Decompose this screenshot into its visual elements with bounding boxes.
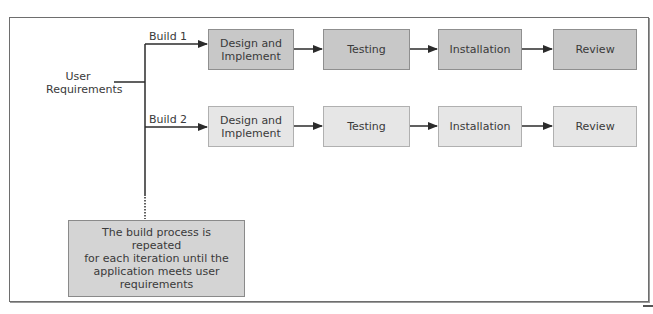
build2-step-review: Review [553, 106, 637, 147]
build1-step-installation: Installation [438, 29, 522, 70]
step-text: Review [575, 120, 614, 133]
step-text: Review [575, 43, 614, 56]
step-text-line2: Implement [220, 50, 282, 63]
page-edge-mark [643, 305, 653, 307]
build2-label: Build 2 [149, 113, 187, 126]
note-line1: The build process is repeated [77, 226, 236, 252]
user-requirements-label: User Requirements [46, 70, 110, 96]
build2-step-testing: Testing [323, 106, 410, 147]
step-text: Installation [450, 43, 511, 56]
user-requirements-line1: User [46, 70, 110, 83]
step-text: Installation [450, 120, 511, 133]
user-requirements-line2: Requirements [46, 83, 110, 96]
build1-step-review: Review [553, 29, 637, 70]
note-line2: for each iteration until the [77, 252, 236, 265]
step-text: Testing [347, 43, 386, 56]
build1-label: Build 1 [149, 30, 187, 43]
step-text-line2: Implement [220, 127, 282, 140]
build1-step-testing: Testing [323, 29, 410, 70]
note-line4: requirements [77, 278, 236, 291]
iteration-note-box: The build process is repeated for each i… [68, 220, 245, 297]
build2-step-design-implement: Design and Implement [208, 106, 294, 147]
step-text: Testing [347, 120, 386, 133]
step-text-line1: Design and [220, 37, 282, 50]
note-line3: application meets user [77, 265, 236, 278]
build2-step-installation: Installation [438, 106, 522, 147]
step-text-line1: Design and [220, 114, 282, 127]
build1-step-design-implement: Design and Implement [208, 29, 294, 70]
